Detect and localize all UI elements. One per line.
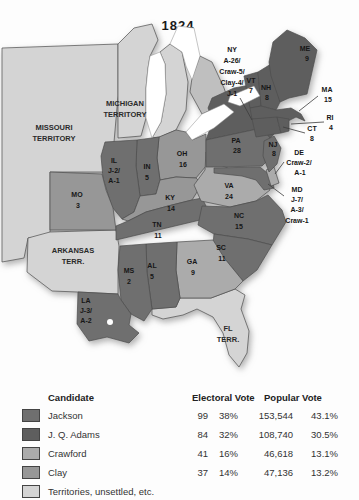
leader-line-ri [291, 122, 324, 124]
label-al-1: 5 [150, 273, 154, 280]
legend-candidate-name: J. Q. Adams [48, 429, 168, 440]
label-oh-0: OH [177, 150, 188, 157]
legend-candidate-name: Jackson [48, 410, 168, 421]
legend: Candidate Electoral Vote Popular Vote Ja… [22, 388, 342, 500]
legend-swatch-crawford [22, 447, 40, 460]
label-sc-1: 11 [218, 255, 226, 262]
legend-candidate-name: Territories, unsettled, etc. [48, 486, 168, 497]
legend-popular-pct: 13.1% [293, 448, 338, 459]
label-ny-3: Clay-4/ [221, 79, 244, 87]
label-michigan-territory-1: TERRITORY [104, 110, 147, 119]
label-nj-1: 8 [272, 150, 276, 157]
legend-electoral-count: 99 [168, 410, 208, 421]
legend-popular-count: 153,544 [238, 410, 293, 421]
label-florida-territory-0: FL [223, 324, 233, 333]
label-nc-1: 15 [235, 223, 243, 230]
legend-electoral-pct: 16% [208, 448, 238, 459]
legend-swatch-adams [22, 428, 40, 441]
label-ct-1: 8 [310, 135, 314, 142]
label-missouri-territory-1: TERRITORY [33, 134, 76, 143]
legend-popular-count: 108,740 [238, 429, 293, 440]
legend-candidate-name: Crawford [48, 448, 168, 459]
label-nh-1: 8 [265, 94, 269, 101]
legend-electoral-pct: 14% [208, 467, 238, 478]
label-vt-0: VT [247, 77, 257, 84]
label-de-2: A-1 [294, 169, 305, 176]
label-michigan-territory-0: MICHIGAN [106, 99, 144, 108]
label-va-1: 24 [225, 193, 233, 200]
legend-row-territories: Territories, unsettled, etc. [22, 482, 342, 500]
state-maine [269, 30, 317, 102]
state-connecticut [252, 117, 281, 137]
legend-header-electoral-vote: Electoral Vote [168, 392, 238, 403]
legend-electoral-pct: 32% [208, 429, 238, 440]
legend-popular-pct: 43.1% [293, 410, 338, 421]
legend-electoral-pct: 38% [208, 410, 238, 421]
label-mo-1: 3 [76, 202, 80, 209]
label-ny-1: A-26/ [223, 57, 240, 64]
label-sc-0: SC [216, 244, 226, 251]
legend-candidate-name: Clay [48, 467, 168, 478]
lake-pontchartrain [107, 319, 113, 325]
map-container: 1824 [0, 0, 359, 390]
legend-swatch-territory [22, 485, 40, 498]
label-ny-4: J-1 [227, 90, 237, 97]
leader-line-md [268, 184, 284, 196]
label-ny-2: Craw-5/ [219, 68, 244, 75]
label-nh-0: NH [261, 84, 271, 91]
label-il-0: IL [111, 157, 118, 164]
label-md-1: J-7/ [291, 196, 303, 203]
legend-row-jackson: Jackson 99 38% 153,544 43.1% [22, 406, 342, 425]
legend-popular-count: 46,618 [238, 448, 293, 459]
label-de-0: DE [294, 149, 304, 156]
label-ma-1: 15 [324, 96, 332, 103]
label-ga-1: 9 [191, 269, 195, 276]
label-la-0: LA [81, 297, 90, 304]
label-florida-territory-1: TERR. [217, 335, 240, 344]
label-ga-0: GA [187, 258, 198, 265]
label-ma-0: MA [322, 86, 333, 93]
label-pa-1: 28 [233, 147, 241, 154]
legend-electoral-count: 41 [168, 448, 208, 459]
label-tn-1: 11 [154, 232, 162, 239]
label-md-3: Craw-1 [285, 217, 308, 224]
label-ri-0: RI [327, 114, 334, 121]
label-ky-0: KY [165, 194, 175, 201]
election-map-1824: 1824 [0, 0, 359, 390]
label-ms-1: 2 [127, 278, 131, 285]
label-va-0: VA [224, 182, 233, 189]
leader-line-ma [299, 96, 318, 111]
legend-row-adams: J. Q. Adams 84 32% 108,740 30.5% [22, 425, 342, 444]
label-oh-1: 16 [179, 161, 187, 168]
label-missouri-territory-0: MISSOURI [35, 123, 72, 132]
legend-header-row: Candidate Electoral Vote Popular Vote [22, 388, 342, 406]
legend-row-crawford: Crawford 41 16% 46,618 13.1% [22, 444, 342, 463]
legend-swatch-clay [22, 466, 40, 479]
label-mo-0: MO [71, 191, 83, 198]
label-me-0: ME [300, 45, 311, 52]
label-ky-1: 14 [167, 205, 175, 212]
label-la-1: J-3/ [80, 307, 92, 314]
label-md-2: A-3/ [290, 206, 303, 213]
label-tn-0: TN [152, 221, 161, 228]
legend-electoral-count: 37 [168, 467, 208, 478]
label-de-1: Craw-2/ [286, 159, 311, 166]
label-ct-0: CT [307, 125, 317, 132]
label-il-1: J-2/ [108, 167, 120, 174]
label-al-0: AL [147, 262, 157, 269]
label-ri-1: 4 [329, 124, 333, 131]
label-il-2: A-1 [108, 177, 119, 184]
legend-popular-count: 47,136 [238, 467, 293, 478]
legend-row-clay: Clay 37 14% 47,136 13.2% [22, 463, 342, 482]
label-in-1: 5 [145, 174, 149, 181]
label-me-1: 9 [305, 55, 309, 62]
label-md-0: MD [292, 186, 303, 193]
label-arkansas-territory-0: ARKANSAS [52, 246, 95, 255]
page: 1824 [0, 0, 359, 500]
label-ny-0: NY [227, 46, 237, 53]
label-nc-0: NC [234, 212, 244, 219]
legend-swatch-jackson [22, 409, 40, 422]
label-ms-0: MS [124, 267, 135, 274]
legend-popular-pct: 13.2% [293, 467, 338, 478]
label-la-2: A-2 [80, 317, 91, 324]
